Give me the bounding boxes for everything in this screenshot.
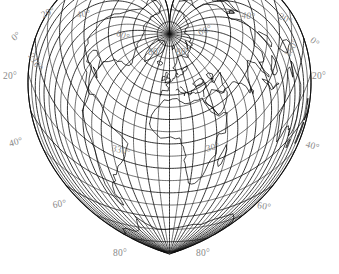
graticule-label-latitude-6: 20° [3, 72, 17, 82]
graticule-label-longitude-11: 40° [241, 11, 256, 22]
coastline-ireland [162, 76, 165, 80]
coastline-iceland [158, 61, 163, 65]
coastline-scandinavia_baltic [177, 66, 188, 77]
meridian-110 [170, 24, 279, 252]
coastline-japan_hokkaido [212, 0, 218, 1]
graticule-label-latitude-17: 20° [312, 72, 326, 82]
map-graticule-svg [0, 0, 339, 274]
coastline-indonesia_sumatra [262, 79, 273, 90]
graticule-label-longitude-1: 40° [76, 9, 91, 20]
coastline-svalbard [172, 46, 174, 50]
coastline-red_sea [204, 102, 218, 115]
graticule-label-longitude-14: 80° [176, 48, 190, 58]
coastline-korea [229, 10, 234, 13]
meridian--110 [61, 24, 170, 252]
graticule-label-longitude-3: 80° [148, 48, 162, 58]
graticule-label-latitude-10: 80° [113, 249, 127, 259]
map-figure: 20°40°60°80°0°210°20°330°40°60°80°40°20°… [0, 0, 339, 274]
graticule-label-latitude-21: 80° [196, 249, 210, 259]
